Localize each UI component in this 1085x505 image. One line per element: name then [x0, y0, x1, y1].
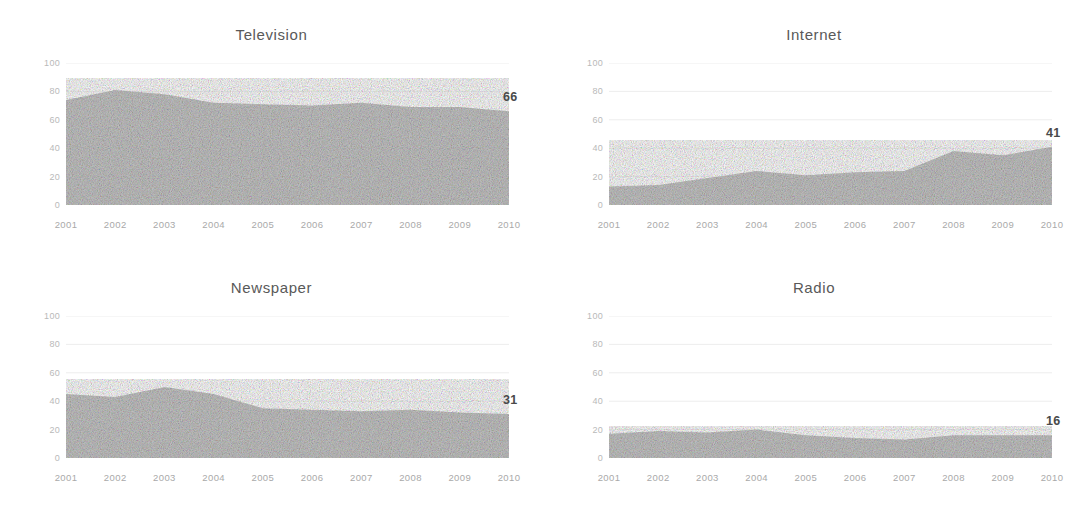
x-axis-tick-label: 2001: [44, 219, 88, 230]
x-axis-tick-label: 2009: [981, 472, 1025, 483]
y-axis-tick-label: 40: [565, 143, 603, 153]
series-end-value-label: 31: [503, 394, 518, 407]
y-axis-tick-label: 0: [565, 453, 603, 463]
x-axis-tick-label: 2008: [932, 219, 976, 230]
chart-panel-internet: Internet 1008060402002001200220032004200…: [543, 0, 1085, 253]
x-axis-tick-label: 2001: [44, 472, 88, 483]
x-axis-tick-label: 2008: [389, 219, 433, 230]
x-axis-tick-label: 2009: [981, 219, 1025, 230]
x-axis-tick-label: 2005: [784, 472, 828, 483]
y-axis-tick-label: 0: [22, 453, 60, 463]
y-axis-tick-label: 60: [565, 115, 603, 125]
x-axis-tick-label: 2002: [636, 219, 680, 230]
y-axis-tick-label: 40: [565, 396, 603, 406]
y-axis-tick-label: 60: [22, 115, 60, 125]
chart-panel-television: Television 10080604020020012002200320042…: [0, 0, 543, 253]
x-axis-tick-label: 2010: [1030, 219, 1074, 230]
x-axis-tick-label: 2007: [882, 219, 926, 230]
x-axis-tick-label: 2010: [487, 219, 531, 230]
x-axis-tick-label: 2002: [93, 472, 137, 483]
x-axis-tick-label: 2001: [587, 219, 631, 230]
area-series: [609, 430, 1052, 458]
y-axis-tick-label: 20: [565, 172, 603, 182]
x-axis-tick-label: 2003: [685, 219, 729, 230]
x-axis-tick-label: 2004: [192, 219, 236, 230]
small-multiples-chart-grid: Television 10080604020020012002200320042…: [0, 0, 1085, 505]
x-axis-tick-label: 2003: [685, 472, 729, 483]
x-axis-tick-label: 2002: [636, 472, 680, 483]
x-axis-tick-label: 2003: [142, 472, 186, 483]
y-axis-tick-label: 0: [22, 200, 60, 210]
y-axis-tick-label: 60: [565, 368, 603, 378]
area-series: [609, 147, 1052, 205]
chart-panel-newspaper: Newspaper 100806040200200120022003200420…: [0, 253, 543, 505]
x-axis-tick-label: 2003: [142, 219, 186, 230]
area-series: [66, 387, 509, 458]
y-axis-tick-label: 100: [565, 311, 603, 321]
x-axis-tick-label: 2002: [93, 219, 137, 230]
y-axis-tick-label: 80: [565, 339, 603, 349]
y-axis-tick-label: 100: [22, 311, 60, 321]
plot-area: 1008060402002001200220032004200520062007…: [543, 253, 1085, 505]
plot-area: 1008060402002001200220032004200520062007…: [0, 0, 543, 253]
series-end-value-label: 41: [1046, 127, 1061, 140]
y-axis-tick-label: 20: [22, 425, 60, 435]
x-axis-tick-label: 2005: [241, 472, 285, 483]
y-axis-tick-label: 0: [565, 200, 603, 210]
x-axis-tick-label: 2006: [290, 219, 334, 230]
y-axis-tick-label: 100: [565, 58, 603, 68]
y-axis-tick-label: 80: [565, 86, 603, 96]
x-axis-tick-label: 2004: [735, 219, 779, 230]
area-series: [66, 90, 509, 205]
plot-area: 1008060402002001200220032004200520062007…: [0, 253, 543, 505]
x-axis-tick-label: 2009: [438, 219, 482, 230]
plot-canvas: [66, 316, 509, 458]
y-axis-tick-label: 60: [22, 368, 60, 378]
plot-canvas: [609, 63, 1052, 205]
chart-panel-radio: Radio 1008060402002001200220032004200520…: [543, 253, 1085, 505]
x-axis-tick-label: 2006: [833, 472, 877, 483]
x-axis-tick-label: 2010: [487, 472, 531, 483]
x-axis-tick-label: 2007: [882, 472, 926, 483]
x-axis-tick-label: 2009: [438, 472, 482, 483]
plot-canvas: [66, 63, 509, 205]
x-axis-tick-label: 2007: [339, 219, 383, 230]
y-axis-tick-label: 80: [22, 86, 60, 96]
y-axis-tick-label: 20: [565, 425, 603, 435]
y-axis-tick-label: 20: [22, 172, 60, 182]
x-axis-tick-label: 2004: [735, 472, 779, 483]
x-axis-tick-label: 2008: [932, 472, 976, 483]
x-axis-tick-label: 2005: [784, 219, 828, 230]
plot-area: 1008060402002001200220032004200520062007…: [543, 0, 1085, 253]
x-axis-tick-label: 2010: [1030, 472, 1074, 483]
y-axis-tick-label: 80: [22, 339, 60, 349]
x-axis-tick-label: 2001: [587, 472, 631, 483]
x-axis-tick-label: 2004: [192, 472, 236, 483]
x-axis-tick-label: 2005: [241, 219, 285, 230]
x-axis-tick-label: 2007: [339, 472, 383, 483]
y-axis-tick-label: 40: [22, 143, 60, 153]
x-axis-tick-label: 2008: [389, 472, 433, 483]
series-end-value-label: 66: [503, 91, 518, 104]
plot-canvas: [609, 316, 1052, 458]
series-end-value-label: 16: [1046, 415, 1061, 428]
y-axis-tick-label: 100: [22, 58, 60, 68]
x-axis-tick-label: 2006: [290, 472, 334, 483]
y-axis-tick-label: 40: [22, 396, 60, 406]
x-axis-tick-label: 2006: [833, 219, 877, 230]
